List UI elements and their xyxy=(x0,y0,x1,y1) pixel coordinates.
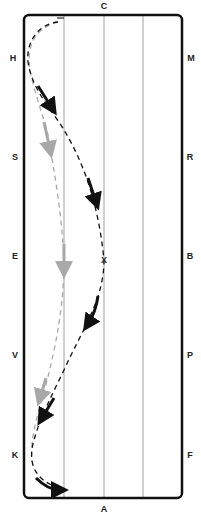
letter-a: A xyxy=(101,504,108,513)
black-arrow-5 xyxy=(36,478,60,490)
letter-v: V xyxy=(12,350,18,360)
black-arrow-2 xyxy=(88,178,96,202)
black-serpentine-path xyxy=(28,22,104,490)
grey-shallow-path xyxy=(29,22,64,462)
letter-f: F xyxy=(187,450,193,460)
black-arrow-4 xyxy=(42,398,54,418)
letter-r: R xyxy=(187,152,194,162)
black-arrow-3 xyxy=(88,296,98,324)
black-arrow-1 xyxy=(38,86,52,108)
letter-c: C xyxy=(101,1,108,11)
letter-p: P xyxy=(187,350,193,360)
letter-b: B xyxy=(187,251,194,261)
grey-arrow-3 xyxy=(40,378,46,398)
letter-s: S xyxy=(12,152,18,162)
letter-k: K xyxy=(12,450,19,460)
arena-diagram: X C H M S R E B V P K F A xyxy=(0,0,201,513)
letter-h: H xyxy=(10,53,17,63)
letter-e: E xyxy=(12,251,18,261)
center-marker-x: X xyxy=(101,255,107,265)
grey-arrow-1 xyxy=(44,122,50,150)
letter-m: M xyxy=(187,53,195,63)
